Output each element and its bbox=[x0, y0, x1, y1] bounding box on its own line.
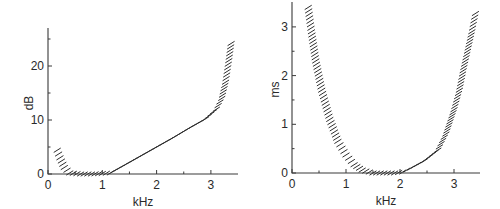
x-tick-label: 2 bbox=[153, 178, 160, 192]
y-tick-label: 10 bbox=[31, 113, 45, 127]
x-tick-label: 0 bbox=[45, 178, 52, 192]
x-axis-label: kHz bbox=[133, 195, 154, 209]
y-tick-label: 0 bbox=[281, 166, 288, 180]
y-tick-label: 20 bbox=[31, 59, 45, 73]
x-tick-label: 1 bbox=[99, 178, 106, 192]
y-axis-label: ms bbox=[268, 82, 282, 98]
y-tick-label: 3 bbox=[281, 20, 288, 34]
x-tick-label: 3 bbox=[208, 178, 215, 192]
chart-threshold-db: 012301020kHzdB bbox=[0, 0, 250, 209]
data-series-hatch bbox=[305, 5, 479, 175]
x-tick-label: 3 bbox=[451, 177, 458, 191]
data-series-hatch bbox=[54, 41, 235, 176]
x-axis-label: kHz bbox=[376, 194, 397, 208]
x-tick-label: 0 bbox=[289, 177, 296, 191]
y-tick-label: 1 bbox=[281, 117, 288, 131]
y-tick-label: 0 bbox=[37, 167, 44, 181]
axis-lines bbox=[48, 28, 238, 174]
chart-delay-ms: 01230123kHzms bbox=[250, 0, 500, 209]
x-tick-label: 1 bbox=[343, 177, 350, 191]
x-tick-label: 2 bbox=[397, 177, 404, 191]
y-tick-label: 2 bbox=[281, 69, 288, 83]
y-axis-label: dB bbox=[22, 96, 36, 111]
figure: 012301020kHzdB 01230123kHzms bbox=[0, 0, 500, 209]
